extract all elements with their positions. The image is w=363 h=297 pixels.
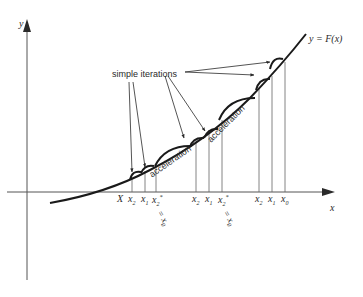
tick-g2-x1: x1	[205, 194, 212, 206]
root-label: X	[117, 194, 123, 204]
tick-g1-x2star: x2*	[152, 194, 162, 207]
y-axis-arrow-icon	[23, 19, 31, 32]
y-axis-label: y	[19, 19, 23, 29]
tick-g1-x1: x1	[141, 194, 148, 206]
simple-iterations-label: simple iterations	[112, 70, 177, 79]
curve-label: y = F(x)	[309, 34, 342, 44]
tick-g3-x2: x2	[255, 194, 262, 206]
x-axis-arrow-icon	[322, 188, 335, 196]
y-axis	[23, 19, 31, 280]
tick-g3-x1: x1	[268, 194, 275, 206]
x-axis-label: x	[330, 203, 334, 213]
tick-g1-x2: x2	[128, 194, 135, 206]
tick-g2-x2: x2	[192, 194, 199, 206]
tick-g2-x2star: x2*	[218, 194, 228, 207]
tick-g3-x0: x0	[281, 194, 288, 206]
